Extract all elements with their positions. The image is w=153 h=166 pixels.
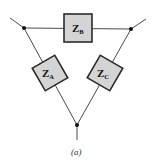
right-terminal-lead bbox=[131, 19, 146, 29]
impedance-zb: ZB bbox=[64, 14, 92, 42]
delta-network-diagram: ZB ZA ZC (a) bbox=[0, 0, 153, 166]
right-node bbox=[129, 27, 133, 31]
left-terminal-lead bbox=[10, 18, 24, 28]
figure-caption: (a) bbox=[71, 147, 82, 157]
left-node bbox=[22, 26, 26, 30]
bottom-node bbox=[75, 123, 79, 127]
